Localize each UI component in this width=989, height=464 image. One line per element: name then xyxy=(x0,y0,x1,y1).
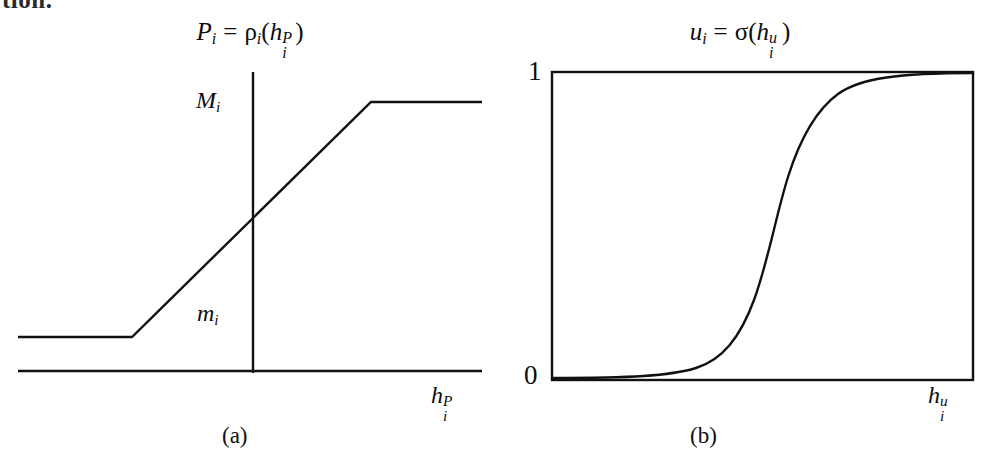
panel-a-plot xyxy=(0,0,500,420)
panel-b-caption: (b) xyxy=(690,423,717,449)
panel-b-x-label: hui xyxy=(928,382,952,409)
panel-a: Pi=ρi(hPi) Mi mi hPi (a) xyxy=(0,0,500,464)
figure-root: tion. Pi=ρi(hPi) Mi mi hPi (a) xyxy=(0,0,989,464)
panel-b: ui=σ(hui) 1 0 hui (b) xyxy=(500,0,989,464)
panel-b-frame xyxy=(552,72,973,380)
panel-b-plot xyxy=(500,0,989,420)
panel-b-sigmoid-curve xyxy=(552,73,973,378)
panel-b-y-tick-top: 1 xyxy=(528,56,542,87)
panel-a-y-label-bottom: mi xyxy=(197,300,219,327)
panel-a-x-label: hPi xyxy=(431,382,455,409)
panel-a-caption: (a) xyxy=(222,423,248,449)
panel-a-y-label-top: Mi xyxy=(196,87,220,114)
panel-b-y-tick-bottom: 0 xyxy=(524,360,538,391)
panel-a-activation-curve xyxy=(18,102,482,337)
